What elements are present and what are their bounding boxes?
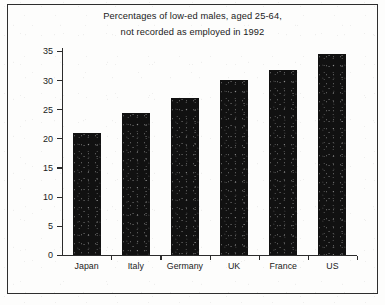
- x-tick: [111, 256, 112, 260]
- chart-title-line-2: not recorded as employed in 1992: [0, 25, 385, 41]
- y-axis: [62, 48, 63, 256]
- y-tick: 35: [57, 51, 62, 52]
- y-tick-label: 10: [43, 192, 53, 202]
- x-tick: [357, 256, 358, 260]
- bar: France: [269, 70, 297, 255]
- bar: US: [318, 54, 346, 255]
- y-tick-label: 30: [43, 76, 53, 86]
- chart-title-line-1: Percentages of low-ed males, aged 25-64,: [0, 9, 385, 25]
- x-tick: [160, 256, 161, 260]
- category-label: Italy: [128, 261, 144, 271]
- bar: Italy: [122, 113, 150, 255]
- y-tick-label: 25: [43, 105, 53, 115]
- x-tick: [259, 256, 260, 260]
- category-label: Germany: [167, 261, 203, 271]
- category-label: US: [326, 261, 338, 271]
- y-tick: 25: [57, 109, 62, 110]
- category-label: UK: [228, 261, 240, 271]
- plot-area: 05101520253035 JapanItalyGermanyUKFrance…: [62, 52, 357, 256]
- category-label: Japan: [75, 261, 99, 271]
- y-tick: 10: [57, 197, 62, 198]
- category-label: France: [270, 261, 297, 271]
- y-tick: 5: [57, 226, 62, 227]
- bar: Germany: [171, 98, 199, 255]
- y-tick: 0: [57, 255, 62, 256]
- y-tick-label: 20: [43, 134, 53, 144]
- y-tick-label: 5: [48, 221, 53, 231]
- y-tick-label: 35: [43, 46, 53, 56]
- y-tick-label: 15: [43, 163, 53, 173]
- bar: UK: [220, 80, 248, 255]
- y-tick: 30: [57, 80, 62, 81]
- x-tick: [308, 256, 309, 260]
- bar-chart-figure: Percentages of low-ed males, aged 25-64,…: [0, 0, 385, 305]
- x-tick: [210, 256, 211, 260]
- bar: Japan: [73, 133, 101, 255]
- y-tick: 15: [57, 167, 62, 168]
- y-tick-label: 0: [48, 250, 53, 260]
- chart-title: Percentages of low-ed males, aged 25-64,…: [0, 9, 385, 40]
- y-tick: 20: [57, 138, 62, 139]
